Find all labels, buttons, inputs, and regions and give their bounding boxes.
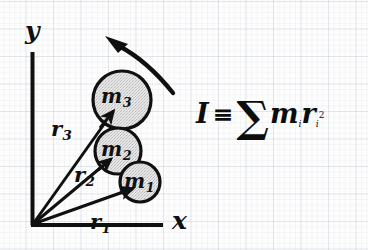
radius-vector-2-label-text: r bbox=[74, 162, 85, 187]
mass-3-label-index: 3 bbox=[123, 95, 132, 110]
mass-1-label-index: 1 bbox=[146, 180, 155, 195]
mass-2-label-index: 2 bbox=[123, 148, 132, 163]
mass-1-label: m1 bbox=[124, 171, 155, 195]
formula-mass-term: m bbox=[270, 98, 299, 129]
summation-symbol: ∑ bbox=[237, 92, 269, 142]
mass-1-label-text: m bbox=[124, 169, 145, 193]
mass-2-label-text: m bbox=[101, 137, 122, 161]
radius-vector-1-label-text: r bbox=[90, 209, 101, 234]
physics-figure: y x r3 r2 r1 m3 m2 m1 I≡∑miri2 bbox=[0, 0, 368, 250]
formula-exponent: 2 bbox=[319, 110, 325, 120]
formula-lhs: I bbox=[196, 98, 209, 129]
mass-3-label: m3 bbox=[101, 86, 132, 110]
mass-3-label-text: m bbox=[101, 84, 122, 108]
radius-vector-3-label: r3 bbox=[51, 118, 72, 143]
formula-radius-term: r bbox=[302, 98, 316, 129]
mass-2-label: m2 bbox=[101, 139, 132, 163]
formula-relation: ≡ bbox=[213, 100, 234, 129]
radius-vector-2-label-index: 2 bbox=[86, 173, 95, 189]
x-axis-label: x bbox=[172, 208, 187, 233]
radius-vector-1-label: r1 bbox=[90, 211, 111, 236]
radius-vector-1-label-index: 1 bbox=[102, 220, 111, 236]
radius-vector-3-label-text: r bbox=[51, 116, 62, 141]
radius-vector-2-label: r2 bbox=[74, 164, 95, 189]
y-axis-label: y bbox=[25, 18, 40, 43]
radius-vector-1 bbox=[33, 189, 133, 225]
moment-of-inertia-formula: I≡∑miri2 bbox=[196, 96, 324, 139]
radius-vector-3-label-index: 3 bbox=[63, 127, 72, 143]
